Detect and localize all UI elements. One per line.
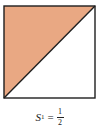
- fraction-numerator: 1: [58, 108, 62, 116]
- caption-subscript: 1: [41, 113, 45, 121]
- caption: S1 = 1 2: [0, 104, 99, 130]
- caption-fraction: 1 2: [57, 108, 64, 127]
- fraction-denominator: 2: [58, 119, 62, 127]
- unit-square-diagram: [0, 0, 99, 104]
- caption-equals: =: [47, 111, 53, 123]
- figure: [0, 0, 99, 104]
